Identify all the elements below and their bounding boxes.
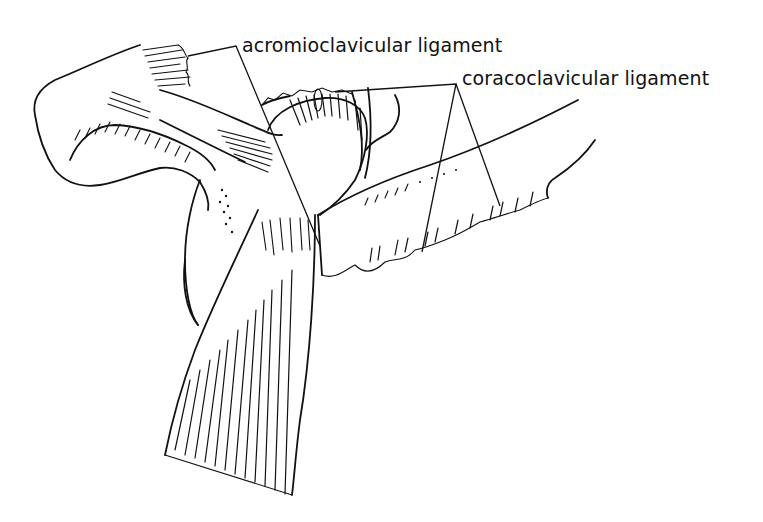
acromioclavicular-ligament-fibers (143, 45, 190, 86)
scapula-lower-outline (184, 260, 198, 325)
humeral-head-outline (262, 88, 399, 215)
coracoclavicular-ligament-label: coracoclavicular ligament (462, 69, 709, 88)
acromioclavicular-ligament-label: acromioclavicular ligament (242, 36, 502, 55)
acromion-outline (34, 45, 282, 210)
acromioclavicular-leader-lines (188, 46, 320, 246)
coracoclavicular-ligament-fibers (290, 89, 362, 140)
coracoid-process-outline (185, 180, 233, 325)
biceps-muscle-outline (165, 210, 315, 495)
